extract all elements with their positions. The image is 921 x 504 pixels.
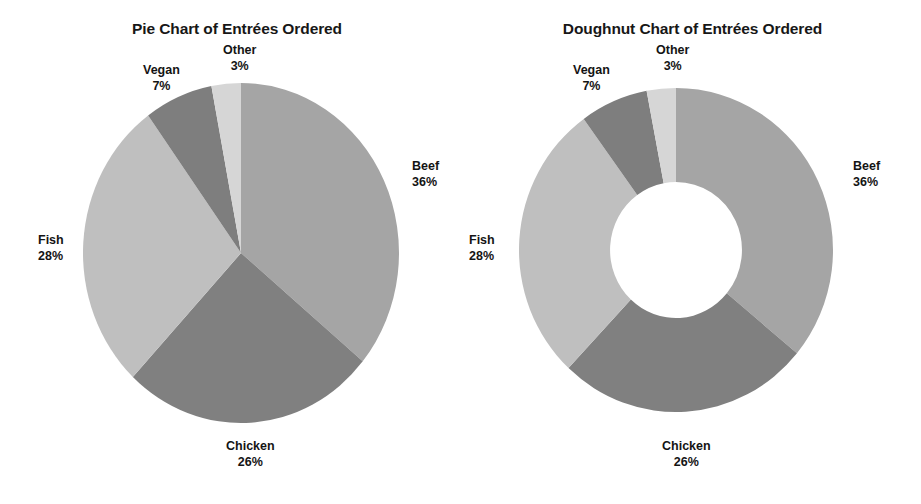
doughnut-label-beef: Beef 36%: [853, 158, 880, 190]
pie-chart-graphic: [82, 82, 402, 426]
pie-label-vegan-pct: 7%: [143, 78, 180, 94]
doughnut-label-chicken: Chicken 26%: [662, 438, 711, 470]
pie-label-chicken-name: Chicken: [226, 439, 275, 453]
doughnut-chart-title: Doughnut Chart of Entrées Ordered: [460, 20, 921, 38]
doughnut-label-beef-name: Beef: [853, 159, 880, 173]
pie-slices: [83, 83, 399, 423]
pie-label-other-pct: 3%: [223, 58, 256, 74]
pie-label-fish-pct: 28%: [38, 248, 64, 264]
pie-label-fish: Fish 28%: [38, 232, 64, 264]
doughnut-label-fish-pct: 28%: [469, 248, 495, 264]
doughnut-label-chicken-pct: 26%: [662, 454, 711, 470]
pie-label-chicken-pct: 26%: [226, 454, 275, 470]
doughnut-label-beef-pct: 36%: [853, 174, 880, 190]
doughnut-label-fish-name: Fish: [469, 233, 495, 247]
pie-label-vegan-name: Vegan: [143, 63, 180, 77]
doughnut-label-vegan-name: Vegan: [573, 63, 610, 77]
pie-chart-panel: Pie Chart of Entrées Ordered Beef 36% Ch…: [0, 0, 460, 504]
pie-label-fish-name: Fish: [38, 233, 64, 247]
pie-label-beef-pct: 36%: [412, 174, 439, 190]
doughnut-label-chicken-name: Chicken: [662, 439, 711, 453]
doughnut-label-other-pct: 3%: [656, 58, 689, 74]
pie-label-vegan: Vegan 7%: [143, 62, 180, 94]
doughnut-label-vegan-pct: 7%: [573, 78, 610, 94]
pie-label-chicken: Chicken 26%: [226, 438, 275, 470]
doughnut-chart-graphic: [517, 86, 837, 416]
pie-label-beef-name: Beef: [412, 159, 439, 173]
pie-label-other-name: Other: [223, 43, 256, 57]
pie-label-other: Other 3%: [223, 42, 256, 74]
doughnut-label-other-name: Other: [656, 43, 689, 57]
pie-chart-title: Pie Chart of Entrées Ordered: [0, 20, 460, 38]
doughnut-label-fish: Fish 28%: [469, 232, 495, 264]
doughnut-label-vegan: Vegan 7%: [573, 62, 610, 94]
doughnut-slice-beef[interactable]: [676, 88, 833, 353]
doughnut-slices: [519, 88, 833, 412]
doughnut-label-other: Other 3%: [656, 42, 689, 74]
doughnut-chart-panel: Doughnut Chart of Entrées Ordered Beef 3…: [460, 0, 921, 504]
pie-label-beef: Beef 36%: [412, 158, 439, 190]
